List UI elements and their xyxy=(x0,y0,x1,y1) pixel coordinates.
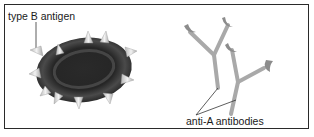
anti-a-antibody-2 xyxy=(231,50,264,114)
antigen-label: type B antigen xyxy=(8,11,75,22)
anti-a-antibody-1 xyxy=(190,25,228,88)
antibodies-label: anti-A antibodies xyxy=(186,116,264,127)
